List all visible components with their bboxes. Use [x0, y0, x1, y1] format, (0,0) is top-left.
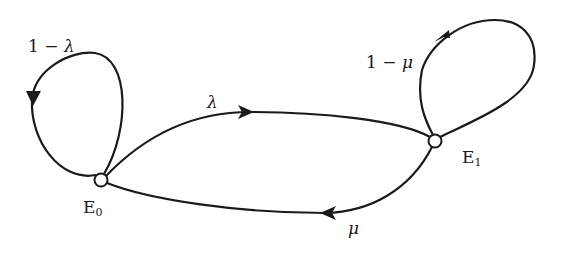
label-e1-to-e0: μ — [348, 218, 359, 238]
node-e0 — [95, 174, 108, 187]
edge-e1-to-e0 — [107, 147, 432, 213]
label-e0-self-loop: 1 − λ — [28, 36, 75, 56]
node-label-e0: E0 — [83, 197, 102, 219]
label-symbol: μ — [402, 52, 413, 72]
edge-e0-self-loop — [32, 53, 123, 176]
arrow-e0-self-loop — [26, 91, 41, 106]
label-symbol: μ — [348, 218, 359, 238]
label-prefix: 1 − — [366, 52, 402, 72]
node-label-e1: E1 — [462, 147, 481, 169]
edge-e0-to-e1 — [106, 112, 430, 176]
node-letter: E — [462, 147, 474, 167]
label-e0-to-e1: λ — [207, 92, 218, 112]
node-subscript: 1 — [474, 156, 481, 169]
node-letter: E — [83, 197, 95, 217]
label-symbol: λ — [64, 36, 75, 56]
node-subscript: 0 — [95, 206, 102, 219]
edge-e1-self-loop — [420, 20, 535, 137]
label-e1-self-loop: 1 − μ — [366, 52, 413, 72]
label-prefix: 1 − — [28, 36, 64, 56]
node-e1 — [429, 135, 442, 148]
label-symbol: λ — [207, 92, 218, 112]
